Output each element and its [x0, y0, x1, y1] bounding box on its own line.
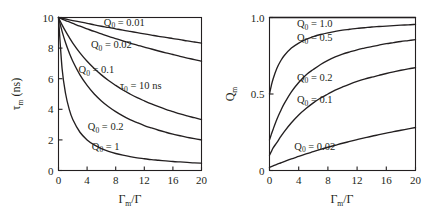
left-plot-svg: 0481216200246810 Q0 = 0.01Q0 = 0.02Q0 = …	[0, 0, 219, 217]
curve-label: Q0 = 0.02	[91, 39, 132, 53]
x-tick-label: 4	[84, 174, 90, 186]
y-tick-label: 6	[48, 73, 54, 85]
curve-label: Q0 = 0.02	[294, 141, 335, 155]
data-curve	[270, 128, 416, 168]
left-annotations: τ0 = 10 ns	[120, 80, 162, 94]
chart-panel-right: 04812162000.51.0 Q0 = 1.0Q0 = 0.5Q0 = 0.…	[218, 0, 437, 217]
x-tick-label: 16	[381, 174, 393, 186]
right-plot-frame	[270, 18, 416, 171]
right-curve-labels: Q0 = 1.0Q0 = 0.5Q0 = 0.2Q0 = 0.1Q0 = 0.0…	[294, 18, 335, 154]
y-tick-label: 0	[48, 165, 54, 177]
chart-panel-left: 0481216200246810 Q0 = 0.01Q0 = 0.02Q0 = …	[0, 0, 219, 217]
plot-annotation: τ0 = 10 ns	[120, 80, 162, 94]
curve-label: Q0 = 1	[92, 141, 120, 155]
x-tick-label: 8	[325, 174, 331, 186]
y-tick-label: 2	[48, 134, 54, 146]
curve-label: Q0 = 0.2	[88, 121, 124, 135]
left-yaxis-title: τm (ns)	[9, 78, 25, 110]
data-curve	[270, 24, 416, 94]
x-tick-label: 8	[113, 174, 119, 186]
x-tick-label: 0	[267, 174, 273, 186]
y-tick-label: 4	[48, 103, 54, 115]
data-curve	[270, 68, 416, 156]
x-tick-label: 16	[167, 174, 179, 186]
x-tick-label: 20	[196, 174, 208, 186]
left-tick-labels: 0481216200246810	[43, 12, 208, 186]
x-tick-label: 20	[410, 174, 422, 186]
y-tick-label: 10	[43, 12, 55, 24]
curve-label: Q0 = 0.5	[297, 32, 333, 46]
right-curve-group	[270, 18, 416, 168]
data-curve	[270, 40, 416, 140]
x-tick-label: 12	[352, 174, 363, 186]
right-yaxis-title: Qm	[223, 87, 239, 102]
curve-label: Q0 = 0.1	[297, 94, 333, 108]
x-tick-label: 0	[56, 174, 62, 186]
right-plot-svg: 04812162000.51.0 Q0 = 1.0Q0 = 0.5Q0 = 0.…	[218, 0, 437, 217]
curve-label: Q0 = 0.1	[79, 64, 115, 78]
curve-label: Q0 = 0.2	[297, 72, 333, 86]
y-tick-label: 1.0	[251, 12, 265, 24]
right-xaxis-title: Γm/Γ	[330, 192, 353, 208]
left-xaxis-title: Γm/Γ	[118, 192, 141, 208]
x-tick-label: 12	[139, 174, 150, 186]
figure-container: 0481216200246810 Q0 = 0.01Q0 = 0.02Q0 = …	[0, 0, 437, 217]
curve-label: Q0 = 1.0	[297, 18, 333, 32]
y-tick-label: 8	[48, 42, 54, 54]
y-tick-label: 0	[259, 165, 265, 177]
right-axis-ticks	[270, 18, 416, 171]
right-tick-labels: 04812162000.51.0	[251, 12, 422, 186]
x-tick-label: 4	[296, 174, 302, 186]
y-tick-label: 0.5	[251, 88, 265, 100]
data-curve	[59, 18, 202, 140]
